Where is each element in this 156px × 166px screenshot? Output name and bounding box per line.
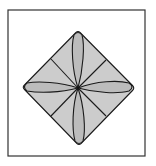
origami-diagram xyxy=(0,0,156,166)
center-point xyxy=(77,87,80,90)
